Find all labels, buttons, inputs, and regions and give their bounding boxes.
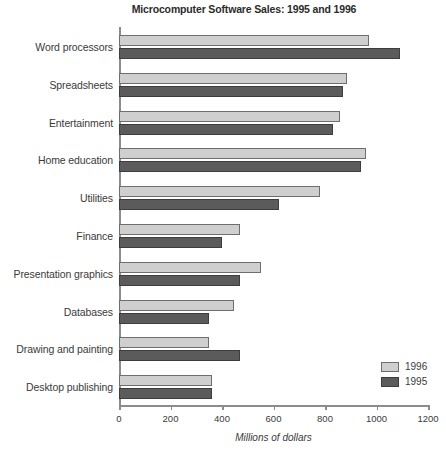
category-label: Desktop publishing bbox=[26, 381, 113, 393]
x-tick bbox=[222, 405, 224, 410]
x-tick-label: 200 bbox=[163, 413, 179, 424]
category-label: Home education bbox=[38, 154, 113, 166]
x-tick bbox=[377, 405, 379, 410]
x-tick-label: 600 bbox=[266, 413, 282, 424]
bar-1996 bbox=[119, 300, 234, 311]
x-tick bbox=[119, 405, 121, 410]
chart-legend: 1996 1995 bbox=[381, 360, 443, 390]
bar-group: Drawing and painting bbox=[119, 337, 428, 361]
plot-area: 020040060080010001200 Word processorsSpr… bbox=[119, 27, 428, 405]
x-tick bbox=[428, 405, 430, 410]
bar-1995 bbox=[119, 388, 212, 399]
bar-1996 bbox=[119, 148, 366, 159]
bar-1995 bbox=[119, 161, 361, 172]
x-tick-label: 800 bbox=[317, 413, 333, 424]
category-label: Presentation graphics bbox=[14, 268, 113, 280]
x-axis-title: Millions of dollars bbox=[119, 432, 428, 443]
x-tick-label: 0 bbox=[116, 413, 121, 424]
bar-1995 bbox=[119, 199, 279, 210]
bar-1995 bbox=[119, 275, 240, 286]
bar-group: Entertainment bbox=[119, 111, 428, 135]
x-tick-label: 1200 bbox=[417, 413, 438, 424]
bar-1995 bbox=[119, 48, 400, 59]
dark-gray-swatch-icon bbox=[381, 377, 399, 387]
bar-1996 bbox=[119, 35, 369, 46]
category-label: Spreadsheets bbox=[49, 79, 113, 91]
bar-1996 bbox=[119, 375, 212, 386]
bar-1995 bbox=[119, 350, 240, 361]
bar-group: Spreadsheets bbox=[119, 73, 428, 97]
bar-1995 bbox=[119, 124, 333, 135]
x-tick bbox=[171, 405, 173, 410]
bar-group: Home education bbox=[119, 148, 428, 172]
x-tick bbox=[325, 405, 327, 410]
bar-1996 bbox=[119, 111, 340, 122]
category-label: Drawing and painting bbox=[16, 343, 113, 355]
bar-1995 bbox=[119, 313, 209, 324]
bar-1995 bbox=[119, 86, 343, 97]
legend-item-1995: 1995 bbox=[381, 375, 443, 388]
category-label: Utilities bbox=[80, 192, 113, 204]
category-label: Databases bbox=[64, 306, 113, 318]
bar-group: Databases bbox=[119, 300, 428, 324]
bar-1996 bbox=[119, 73, 347, 84]
chart-title: Microcomputer Software Sales: 1995 and 1… bbox=[0, 3, 446, 15]
bar-group: Finance bbox=[119, 224, 428, 248]
bar-1996 bbox=[119, 262, 261, 273]
legend-label-1995: 1995 bbox=[405, 376, 427, 387]
bar-group: Presentation graphics bbox=[119, 262, 428, 286]
x-tick-label: 400 bbox=[214, 413, 230, 424]
bar-1996 bbox=[119, 186, 320, 197]
bar-1996 bbox=[119, 337, 209, 348]
x-tick bbox=[274, 405, 276, 410]
bar-1996 bbox=[119, 224, 240, 235]
bar-group: Utilities bbox=[119, 186, 428, 210]
category-label: Word processors bbox=[35, 41, 113, 53]
bar-group: Word processors bbox=[119, 35, 428, 59]
bar-1995 bbox=[119, 237, 222, 248]
legend-label-1996: 1996 bbox=[405, 361, 427, 372]
legend-item-1996: 1996 bbox=[381, 360, 443, 373]
x-tick-label: 1000 bbox=[366, 413, 387, 424]
category-label: Finance bbox=[76, 230, 113, 242]
category-label: Entertainment bbox=[49, 117, 113, 129]
bar-chart: Microcomputer Software Sales: 1995 and 1… bbox=[0, 0, 446, 464]
light-gray-swatch-icon bbox=[381, 362, 399, 372]
